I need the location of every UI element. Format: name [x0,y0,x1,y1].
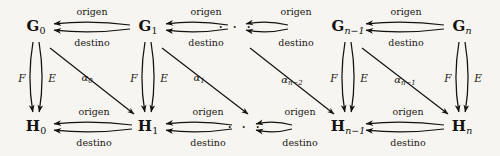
alpha-subscript: 0 [88,77,92,85]
node-subscript: 1 [151,25,157,36]
node-base: G [26,17,39,35]
node-g1: G1 [138,19,157,36]
node-h1: H1 [138,119,158,136]
E-arrow-0 [39,42,42,112]
node-base: G [331,17,344,35]
origen-label-7: origen [284,107,315,117]
node-hn: Hn [452,119,473,136]
alpha-subscript: n−2 [288,79,303,87]
destino-label-4: destino [76,138,111,148]
node-g0: G0 [26,19,45,36]
node-subscript: 0 [40,125,46,136]
destino-label-0: destino [74,38,109,48]
destino-label-2: destino [388,38,423,48]
alpha-base: α [394,74,401,85]
destino-arrow-7 [366,129,444,132]
F-label-1: F [130,73,137,84]
origen-arrow-4 [54,122,132,125]
E-label-2: E [360,73,368,84]
diagram-canvas: G0G1Gn−1GnH0H1Hn−1Hn· · ·· · · origendes… [0,0,500,156]
origen-label-1: origen [190,7,221,17]
destino-label-7: destino [282,138,317,148]
destino-arrow-0 [54,29,130,32]
node-base: H [138,117,152,135]
alpha-base: α [193,72,200,83]
top-ellipsis: · · · [219,20,254,34]
origen-arrow-3 [366,22,444,25]
node-base: G [452,17,465,35]
node-base: H [452,117,466,135]
alpha-label-a0: α0 [81,73,92,86]
alpha-base: α [281,74,288,85]
alpha-label-an-1: αn−1 [394,75,416,88]
origen-label-4: origen [78,107,109,117]
alpha-label-a1: α1 [193,73,204,86]
node-subscript: n [466,125,472,136]
node-base: G [138,17,151,35]
destino-arrow-4 [54,129,132,132]
origen-label-2: origen [390,7,421,17]
origen-label-5: origen [192,107,223,117]
node-base: H [331,117,345,135]
F-label-2: F [330,73,337,84]
E-arrow-3 [465,42,468,112]
node-gn-1: Gn−1 [331,19,364,36]
origen-label-6: origen [392,107,423,117]
node-subscript: n−1 [345,125,365,136]
horizontal-arrow-group [54,22,444,132]
diagonal-arrow-group [50,48,448,114]
F-arrow-2 [342,42,345,112]
E-label-1: E [160,73,168,84]
destino-arrow-3 [366,29,444,32]
alpha-subscript: n−1 [401,79,416,87]
E-arrow-1 [151,42,154,112]
F-label-3: F [444,73,451,84]
node-h0: H0 [26,119,46,136]
destino-label-3: destino [278,38,313,48]
origen-label-3: origen [280,7,311,17]
origen-label-0: origen [76,7,107,17]
alpha-subscript: 1 [200,77,204,85]
E-label-3: E [474,73,482,84]
destino-label-5: destino [190,138,225,148]
origen-arrow-0 [54,22,130,25]
alpha-arrow-a1 [162,48,248,114]
alpha-base: α [81,72,88,83]
node-base: H [26,117,40,135]
E-arrow-2 [351,42,354,112]
destino-label-6: destino [390,138,425,148]
origen-arrow-7 [366,122,444,125]
node-subscript: 1 [152,125,158,136]
alpha-label-an-2: αn−2 [281,75,303,88]
E-label-0: E [48,73,56,84]
origen-arrow-5 [166,122,232,125]
F-arrow-3 [456,42,459,112]
destino-arrow-5 [166,129,232,132]
node-gn: Gn [452,19,471,36]
node-subscript: n−1 [344,25,364,36]
node-subscript: 0 [39,25,45,36]
node-hn-1: Hn−1 [331,119,366,136]
F-arrow-1 [142,42,145,112]
F-label-0: F [18,73,25,84]
bottom-ellipsis: · · · [228,120,263,134]
destino-label-1: destino [188,38,223,48]
F-arrow-0 [30,42,33,112]
node-subscript: n [465,25,471,36]
